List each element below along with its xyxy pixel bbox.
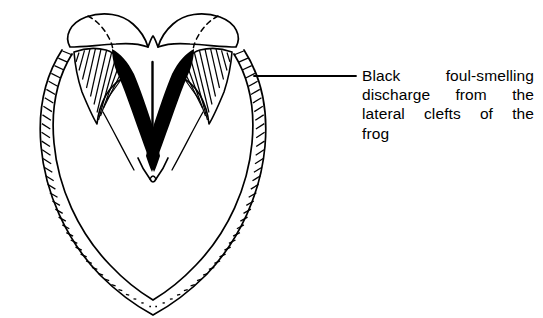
annotation-word: discharge: [362, 85, 430, 104]
annotation-word: clefts: [424, 104, 461, 123]
annotation-label: Blackfoul-smellingdischargefromthelatera…: [362, 66, 538, 143]
figure-page: Blackfoul-smellingdischargefromthelatera…: [0, 0, 543, 318]
annotation-word: lateral: [362, 104, 405, 123]
annotation-line-2: dischargefromthe: [362, 85, 534, 104]
annotation-word: frog: [362, 124, 389, 143]
annotation-word: foul-smelling: [446, 66, 534, 85]
hoof-sole-diagram: [0, 0, 543, 318]
annotation-word: Black: [362, 66, 400, 85]
annotation-word: from: [455, 85, 486, 104]
annotation-word: the: [512, 104, 534, 123]
annotation-word: the: [512, 85, 534, 104]
annotation-line-3: lateralcleftsofthe: [362, 104, 534, 123]
annotation-word: of: [480, 104, 493, 123]
annotation-line-1: Blackfoul-smelling: [362, 66, 534, 85]
heel-bulbs: [68, 14, 239, 52]
annotation-line-4: frog: [362, 124, 538, 143]
